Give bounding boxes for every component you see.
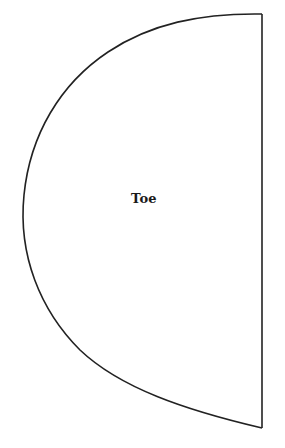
toe-pattern-outline bbox=[0, 0, 285, 448]
curved-edge bbox=[23, 14, 262, 428]
pattern-label: Toe bbox=[131, 191, 157, 206]
